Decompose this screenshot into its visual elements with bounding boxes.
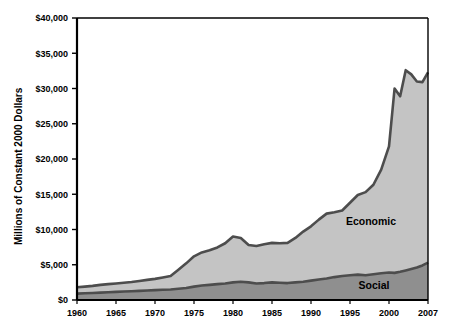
x-tick-label: 1965 (106, 308, 126, 318)
chart-container: $0$5,000$10,000$15,000$20,000$25,000$30,… (0, 0, 450, 333)
x-tick-label: 1970 (145, 308, 165, 318)
x-tick-label: 1980 (223, 308, 243, 318)
y-tick-label: $0 (58, 295, 68, 305)
y-tick-label: $35,000 (35, 49, 68, 59)
x-tick-label: 1975 (184, 308, 204, 318)
y-tick-label: $10,000 (35, 225, 68, 235)
x-tick-label: 1985 (262, 308, 282, 318)
y-tick-label: $40,000 (35, 13, 68, 23)
y-axis-title: Millions of Constant 2000 Dollars (13, 87, 24, 245)
x-tick-label: 2000 (379, 308, 399, 318)
y-tick-label: $25,000 (35, 119, 68, 129)
x-tick-label: 1990 (301, 308, 321, 318)
x-tick-label: 1995 (340, 308, 360, 318)
y-tick-label: $30,000 (35, 84, 68, 94)
x-tick-label: 1960 (67, 308, 87, 318)
series-annotation-social: Social (359, 279, 390, 291)
y-tick-label: $5,000 (40, 260, 68, 270)
x-tick-label: 2007 (418, 308, 438, 318)
y-tick-label: $20,000 (35, 154, 68, 164)
y-tick-label: $15,000 (35, 190, 68, 200)
series-annotation-economic: Economic (346, 215, 396, 227)
area-chart: $0$5,000$10,000$15,000$20,000$25,000$30,… (0, 0, 450, 333)
